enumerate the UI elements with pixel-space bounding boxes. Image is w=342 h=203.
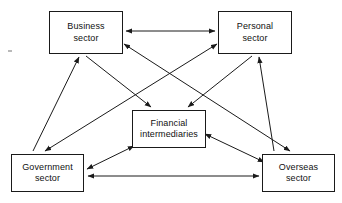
node-government-sector-label-line-1: Government bbox=[22, 162, 73, 174]
edge-personal-to-financial bbox=[188, 56, 252, 107]
node-business-sector-label-line-2: sector bbox=[73, 33, 98, 45]
edge-business-to-financial bbox=[86, 56, 151, 107]
node-personal-sector[interactable]: Personal sector bbox=[218, 11, 292, 54]
node-financial-intermediaries[interactable]: Financial intermediaries bbox=[132, 110, 206, 148]
node-financial-intermediaries-label-line-2: intermediaries bbox=[140, 129, 198, 141]
node-business-sector[interactable]: Business sector bbox=[49, 11, 123, 54]
edge-overseas-to-personal bbox=[259, 57, 274, 151]
node-personal-sector-label-line-2: sector bbox=[242, 33, 267, 45]
scan-artifact-speck bbox=[8, 50, 12, 52]
flow-of-funds-diagram: Business sector Personal sector Financia… bbox=[0, 0, 342, 203]
node-government-sector[interactable]: Government sector bbox=[11, 154, 84, 192]
node-financial-intermediaries-label-line-1: Financial bbox=[151, 118, 188, 130]
node-business-sector-label-line-1: Business bbox=[67, 21, 104, 33]
node-personal-sector-label-line-1: Personal bbox=[237, 21, 273, 33]
edge-government-financial bbox=[87, 146, 134, 169]
node-overseas-sector[interactable]: Overseas sector bbox=[262, 154, 335, 192]
edge-overseas-financial bbox=[205, 134, 264, 162]
node-government-sector-label-line-2: sector bbox=[35, 173, 60, 185]
edge-government-to-business bbox=[33, 57, 79, 151]
node-overseas-sector-label-line-1: Overseas bbox=[279, 162, 318, 174]
node-overseas-sector-label-line-2: sector bbox=[286, 173, 311, 185]
